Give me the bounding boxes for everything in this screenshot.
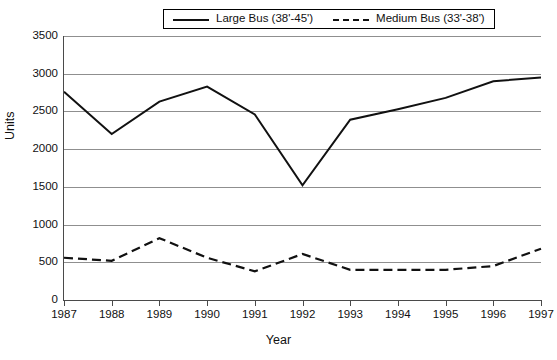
x-tick-label: 1992 (290, 309, 316, 321)
line-chart: Large Bus (38'-45') Medium Bus (33'-38')… (0, 0, 557, 360)
y-tick-label: 500 (39, 257, 58, 269)
y-axis-line (63, 36, 64, 301)
x-tick-label: 1994 (385, 309, 411, 321)
legend-line-solid-icon (173, 14, 209, 25)
legend-entry-large-bus: Large Bus (38'-45') (173, 13, 313, 25)
y-tick-label: 1000 (32, 219, 58, 231)
x-tick-label: 1989 (147, 309, 173, 321)
x-tick (255, 300, 256, 306)
x-tick-label: 1997 (528, 309, 554, 321)
x-tick (541, 300, 542, 306)
x-tick-label: 1991 (242, 309, 268, 321)
series-line-large-bus (64, 77, 541, 185)
legend-line-dashed-icon (333, 14, 369, 25)
x-tick-label: 1988 (99, 309, 125, 321)
y-tick-label: 0 (52, 294, 58, 306)
y-tick-label: 2500 (32, 106, 58, 118)
legend-label-medium-bus: Medium Bus (33'-38') (376, 13, 485, 25)
x-tick-label: 1990 (194, 309, 220, 321)
y-tick-label: 3500 (32, 30, 58, 42)
x-tick-label: 1993 (337, 309, 363, 321)
x-tick-label: 1987 (51, 309, 77, 321)
x-tick (303, 300, 304, 306)
x-tick (112, 300, 113, 306)
series-layer (64, 36, 541, 300)
x-tick-label: 1995 (433, 309, 459, 321)
y-axis-tick-labels: 0500100015002000250030003500 (0, 0, 58, 360)
y-tick-label: 1500 (32, 181, 58, 193)
x-tick (64, 300, 65, 306)
y-axis-title: Units (3, 112, 17, 140)
x-tick (350, 300, 351, 306)
x-tick-label: 1996 (481, 309, 507, 321)
legend-label-large-bus: Large Bus (38'-45') (216, 13, 313, 25)
x-axis-title: Year (0, 333, 557, 347)
y-tick-label: 3000 (32, 68, 58, 80)
chart-legend: Large Bus (38'-45') Medium Bus (33'-38') (163, 9, 495, 29)
x-tick (398, 300, 399, 306)
x-tick (446, 300, 447, 306)
series-line-medium-bus (64, 238, 541, 271)
x-tick (493, 300, 494, 306)
x-tick (159, 300, 160, 306)
legend-entry-medium-bus: Medium Bus (33'-38') (333, 13, 485, 25)
x-tick (207, 300, 208, 306)
plot-area (64, 36, 541, 300)
y-tick-label: 2000 (32, 143, 58, 155)
